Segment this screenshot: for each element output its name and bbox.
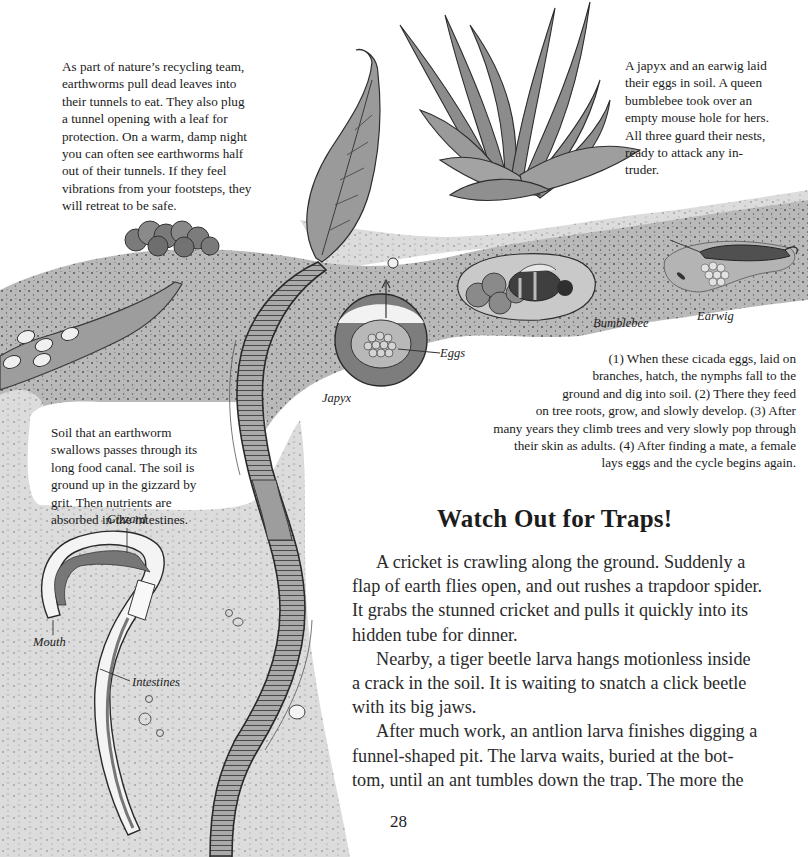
caption-line: ground and dig into soil. (2) There they… (420, 385, 796, 402)
caption-line: (1) When these cicada eggs, laid on (420, 350, 796, 367)
caption-earthworm-recycling: As part of nature’s recycling team, eart… (62, 58, 251, 215)
caption-line: many years they climb trees and very slo… (420, 420, 796, 437)
caption-line: protection. On a warm, damp night (62, 128, 251, 145)
caption-line: vibrations from your footsteps, they (62, 180, 251, 197)
page-number: 28 (390, 812, 407, 832)
caption-line: on tree roots, grow, and slowly develop.… (420, 402, 796, 419)
label-japyx: Japyx (322, 391, 351, 406)
label-intestines: Intestines (132, 675, 180, 690)
body-line: tom, until an ant tumbles down the trap.… (352, 768, 808, 792)
caption-line: long food canal. The soil is (51, 459, 197, 476)
body-line: After much work, an antlion larva finish… (352, 719, 808, 743)
caption-line: their tunnels to eat. They also plug (62, 93, 251, 110)
label-bumblebee: Bumblebee (593, 316, 649, 331)
body-text: A cricket is crawling along the ground. … (352, 550, 808, 792)
body-line: flap of earth flies open, and out rushes… (352, 574, 808, 598)
caption-line: branches, hatch, the nymphs fall to the (420, 367, 796, 384)
body-line: It grabs the stunned cricket and pulls i… (352, 598, 808, 622)
caption-nests: A japyx and an earwig laid their eggs in… (625, 57, 769, 179)
body-line: Nearby, a tiger beetle larva hangs motio… (352, 647, 808, 671)
caption-line: will retreat to be safe. (62, 197, 251, 214)
bumblebee-nest-icon (458, 254, 596, 321)
caption-line: ready to attack any in- (625, 144, 769, 161)
caption-line: As part of nature’s recycling team, (62, 58, 251, 75)
leaf-icon (307, 50, 380, 263)
caption-line: Soil that an earthworm (51, 424, 197, 441)
label-earwig: Earwig (697, 309, 734, 324)
label-gizzard: Gizzard (107, 512, 146, 527)
body-line: with its big jaws. (352, 695, 808, 719)
caption-line: their eggs in soil. A queen (625, 74, 769, 91)
caption-line: empty mouse hole for hers. (625, 109, 769, 126)
caption-line: their skin as adults. (4) After finding … (420, 437, 796, 454)
caption-line: you can often see earthworms half (62, 145, 251, 162)
caption-line: truder. (625, 161, 769, 178)
caption-line: grit. Then nutrients are (51, 494, 197, 511)
caption-line: out of their tunnels. If they feel (62, 162, 251, 179)
caption-cicada-cycle: (1) When these cicada eggs, laid on bran… (420, 350, 796, 472)
caption-line: lays eggs and the cycle begins again. (420, 454, 796, 471)
caption-line: swallows passes through its (51, 441, 197, 458)
body-line: A cricket is crawling along the ground. … (352, 550, 808, 574)
label-eggs: Eggs (440, 346, 465, 361)
grass-plant-icon (400, 2, 640, 200)
caption-line: A japyx and an earwig laid (625, 57, 769, 74)
caption-line: ground up in the gizzard by (51, 476, 197, 493)
caption-line: earthworms pull dead leaves into (62, 75, 251, 92)
caption-line: bumblebee took over an (625, 92, 769, 109)
caption-line: All three guard their nests, (625, 127, 769, 144)
section-heading: Watch Out for Traps! (437, 505, 672, 533)
body-line: funnel-shaped pit. The larva waits, buri… (352, 744, 808, 768)
label-mouth: Mouth (33, 635, 66, 650)
body-line: a crack in the soil. It is waiting to sn… (352, 671, 808, 695)
body-line: hidden tube for dinner. (352, 623, 808, 647)
caption-line: a tunnel opening with a leaf for (62, 110, 251, 127)
